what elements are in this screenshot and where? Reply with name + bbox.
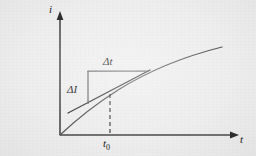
x-axis-arrow-icon	[230, 132, 239, 139]
current-rise-curve	[60, 47, 222, 135]
diagram-svg	[0, 0, 256, 156]
t0-subscript: 0	[106, 143, 110, 152]
delta-i-label: ΔI	[67, 84, 77, 95]
figure-canvas: i t Δt ΔI t0	[0, 0, 256, 156]
x-axis	[60, 132, 239, 139]
y-axis-label: i	[49, 4, 52, 15]
y-axis-arrow-icon	[57, 11, 64, 20]
x-axis-label: t	[240, 134, 243, 145]
delta-t-label: Δt	[103, 56, 113, 67]
tangent-line	[68, 70, 150, 113]
t0-label: t0	[103, 138, 110, 152]
y-axis	[57, 11, 64, 135]
